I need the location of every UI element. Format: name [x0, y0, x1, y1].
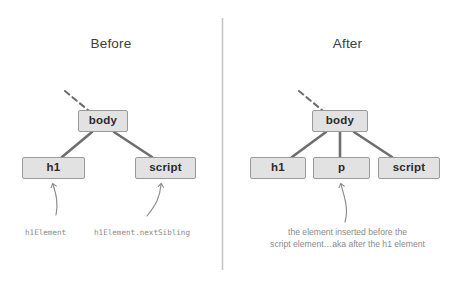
before-node-h1[interactable]: h1 [22, 157, 85, 179]
after-arrow-p [341, 185, 346, 223]
after-node-p[interactable]: p [313, 157, 370, 179]
before-edge-body-script [114, 132, 152, 157]
after-node-body-label: body [326, 115, 354, 127]
panel-title-after: After [232, 36, 463, 51]
panel-title-before: Before [0, 36, 222, 51]
before-annotation-script: h1Element.nextSibling [94, 228, 190, 237]
after-edge-body-h1 [292, 132, 326, 157]
after-annotation-line2: script element…aka after the h1 element [232, 238, 463, 250]
after-node-script-label: script [393, 162, 426, 174]
after-node-h1-label: h1 [271, 162, 285, 174]
after-node-body[interactable]: body [312, 110, 368, 132]
before-annotation-h1: h1Element [25, 228, 66, 237]
after-node-h1[interactable]: h1 [250, 157, 306, 179]
after-node-p-label: p [338, 162, 345, 174]
before-node-body-label: body [89, 115, 117, 127]
before-node-body[interactable]: body [78, 110, 128, 132]
before-node-script[interactable]: script [135, 157, 196, 179]
before-node-script-label: script [149, 162, 182, 174]
after-dashed-connector [299, 91, 323, 111]
before-dashed-connector [65, 91, 89, 111]
before-arrow-script [147, 185, 161, 217]
diagram-canvas: Before body h1 script h1Element h1Elemen… [0, 0, 463, 288]
before-edge-body-h1 [62, 132, 92, 157]
after-node-script[interactable]: script [378, 157, 440, 179]
before-arrow-h1 [53, 185, 57, 216]
before-node-h1-label: h1 [47, 162, 61, 174]
after-edge-body-script [354, 132, 392, 157]
after-annotation-line1: the element inserted before the [232, 226, 463, 238]
